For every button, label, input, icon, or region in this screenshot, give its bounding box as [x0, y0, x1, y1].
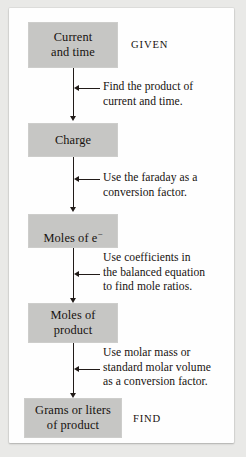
diagram-card: Current and time GIVEN Find the product … [9, 8, 234, 443]
node-moles-of-electrons-superscript: − [97, 229, 102, 239]
connector-2-line [73, 157, 74, 209]
step-1-text: Find the product of current and time. [103, 80, 231, 109]
node-grams-or-liters-of-product-label: Grams or liters of product [31, 403, 115, 432]
node-charge-label: Charge [51, 133, 95, 148]
node-moles-of-electrons: Moles of e− [28, 214, 118, 248]
connector-3-tick-line [78, 274, 100, 275]
label-given: GIVEN [131, 39, 168, 50]
connector-1-tick-arrowhead [74, 85, 79, 91]
diagram-page: Current and time GIVEN Find the product … [0, 0, 246, 457]
connector-2-tick-line [78, 179, 100, 180]
connector-1-tick-line [78, 88, 100, 89]
connector-1-arrowhead [70, 116, 76, 121]
connector-4-tick-line [78, 369, 100, 370]
connector-3-tick-arrowhead [74, 271, 79, 277]
node-moles-of-electrons-label: Moles of e [43, 231, 97, 245]
label-find: FIND [133, 413, 161, 424]
connector-4-tick-arrowhead [74, 366, 79, 372]
node-current-and-time-label: Current and time [47, 30, 99, 59]
step-2-text: Use the faraday as a conversion factor. [103, 171, 231, 200]
connector-2-arrowhead [70, 207, 76, 212]
step-3-text: Use coefficients in the balanced equatio… [103, 251, 233, 295]
node-charge: Charge [28, 123, 118, 157]
node-moles-of-product-label: Moles of product [46, 308, 99, 337]
node-current-and-time: Current and time [28, 22, 118, 68]
node-moles-of-product: Moles of product [28, 303, 118, 343]
connector-1-line [73, 68, 74, 118]
connector-2-tick-arrowhead [74, 176, 79, 182]
node-grams-or-liters-of-product: Grams or liters of product [24, 398, 122, 438]
step-4-text: Use molar mass or standard molar volume … [103, 346, 234, 390]
